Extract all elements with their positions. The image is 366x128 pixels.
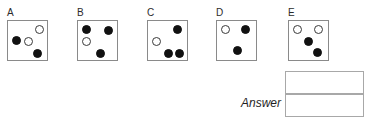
dot-black-bottom-right <box>175 49 184 58</box>
dot-black-top-right <box>104 26 113 35</box>
option-e-box[interactable] <box>288 20 329 61</box>
option-b-box[interactable] <box>77 20 118 61</box>
dot-black-mid-left <box>12 36 21 45</box>
option-d-box[interactable] <box>216 20 257 61</box>
dot-white-mid-left <box>82 37 91 46</box>
dot-black-bottom-right <box>313 48 322 57</box>
dot-black-top-left <box>82 25 91 34</box>
dot-white-mid-left <box>152 37 161 46</box>
dot-black-bottom-center <box>233 46 242 55</box>
option-d-label: D <box>216 8 223 18</box>
dot-black-bottom-center <box>96 49 105 58</box>
dot-white-top-left <box>221 25 230 34</box>
puzzle-container: A B C D E Answer <box>0 0 366 128</box>
dot-black-top-right <box>241 25 250 34</box>
option-c-box[interactable] <box>147 20 188 61</box>
dot-white-top-right <box>314 25 323 34</box>
answer-area <box>285 71 364 118</box>
dot-black-bottom-left <box>164 49 173 58</box>
dot-black-top-right <box>173 25 182 34</box>
dot-black-bottom-right <box>33 49 42 58</box>
dot-white-mid-center <box>24 37 33 46</box>
dot-white-top-left <box>293 25 302 34</box>
answer-box-top[interactable] <box>285 71 364 94</box>
answer-box-bottom[interactable] <box>285 94 364 117</box>
option-a-box[interactable] <box>7 20 48 61</box>
answer-label: Answer <box>225 97 281 110</box>
option-a-label: A <box>7 8 14 18</box>
option-c-label: C <box>147 8 154 18</box>
dot-black-center <box>304 37 313 46</box>
option-b-label: B <box>77 8 84 18</box>
dot-white-top-right <box>35 25 44 34</box>
option-e-label: E <box>288 8 295 18</box>
